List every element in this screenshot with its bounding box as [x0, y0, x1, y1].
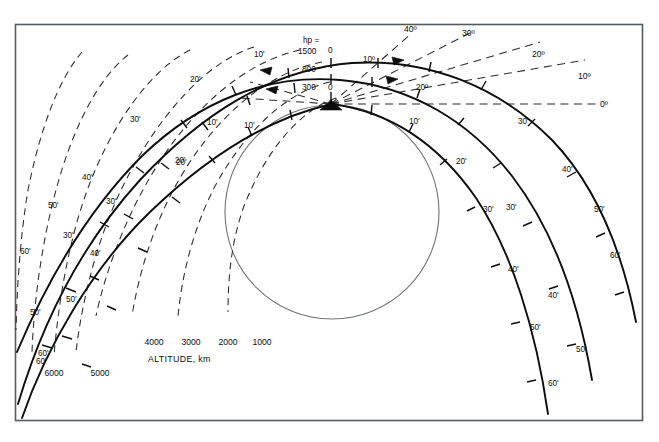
altitude-label-3000: 3000 [181, 337, 200, 347]
elevation-line-10deg-left [250, 82, 331, 104]
time-label-1500-left-40: 40' [82, 173, 93, 182]
tick-mark [481, 81, 486, 90]
time-label-800-right-20: 20' [456, 157, 467, 166]
time-label-300-left-50: 50' [30, 308, 41, 317]
tick-mark [107, 306, 116, 310]
tick-mark [523, 222, 532, 226]
altitude-axis-label: ALTITUDE, km [148, 354, 211, 364]
time-label-1500-left-20: 20' [190, 75, 201, 84]
time-label-1500-right-60: 60' [610, 251, 621, 260]
time-label-800-left-50: 50' [66, 295, 77, 304]
tick-mark [491, 264, 500, 267]
elevation-label-20deg: 20º [532, 49, 546, 59]
altitude-label-1000: 1000 [252, 337, 271, 347]
time-label-1500-left-50: 50' [48, 201, 59, 210]
tick-mark [247, 96, 250, 105]
trajectory-hp-800 [17, 79, 592, 380]
earth-circle [225, 105, 439, 319]
time-label-300-right-40: 40' [508, 265, 519, 274]
time-label-300-right-10: 10' [409, 117, 420, 126]
elevation-label-0deg: 0º [600, 99, 609, 109]
tick-mark [511, 322, 520, 324]
tick-mark [458, 118, 464, 125]
hp-label-800: 800 [302, 64, 316, 74]
altitude-contour-outer2 [16, 52, 82, 330]
tick-mark [161, 163, 169, 169]
hp-zero-marker-bottom: 0 [328, 82, 333, 92]
arrowhead-hp1500-left [260, 67, 272, 75]
tick-mark [290, 110, 292, 120]
time-label-800-left-30: 30' [106, 197, 117, 206]
altitude-label-6000: 6000 [44, 368, 63, 378]
tick-mark [42, 345, 52, 348]
elevation-label-30deg: 30º [462, 28, 476, 38]
time-label-800-right-50: 50' [576, 345, 587, 354]
time-label-800-left-10: 10' [207, 118, 218, 127]
tick-mark [288, 68, 289, 78]
tick-mark [549, 286, 558, 289]
tick-mark [527, 380, 536, 382]
time-label-300-left-60: 60' [36, 357, 47, 366]
altitude-contour-1000 [228, 98, 336, 312]
tick-mark [82, 364, 91, 367]
tick-mark [62, 336, 72, 339]
trajectory-hp-1500 [18, 62, 636, 404]
time-label-300-left-30: 30' [63, 231, 74, 240]
inner-elev-label-20: 20º [416, 83, 428, 92]
tick-mark [493, 163, 501, 168]
tick-mark [615, 292, 624, 295]
tick-mark [371, 105, 372, 115]
time-label-1500-right-50: 50' [594, 205, 605, 214]
hp-legend-title: hp = [303, 35, 320, 45]
tick-mark [567, 344, 576, 346]
hp-label-1500: 1500 [298, 46, 317, 56]
altitude-contour-2000 [178, 82, 330, 316]
tick-mark [124, 214, 133, 219]
trajectory-curves [17, 62, 636, 418]
time-label-1500-right-40: 40' [562, 165, 573, 174]
elevation-label-40deg: 40º [404, 24, 418, 34]
altitude-label-2000: 2000 [218, 337, 237, 347]
time-label-300-right-30: 30' [483, 205, 494, 214]
figure-root: hp = 1500 0 800 300 0 40º 30º 20º 10º 0º… [0, 0, 659, 442]
time-label-1500-left-60: 60' [20, 247, 31, 256]
tick-mark [66, 288, 76, 292]
tick-mark [136, 167, 144, 173]
time-label-1500-left-30: 30' [130, 115, 141, 124]
altitude-label-5000: 5000 [90, 368, 109, 378]
time-label-800-left-40: 40' [90, 249, 101, 258]
elevation-label-10deg: 10º [578, 71, 592, 81]
altitude-contour-6000 [54, 50, 190, 356]
time-label-300-left-10: 10' [244, 121, 255, 130]
tick-mark [467, 207, 475, 211]
tick-mark [138, 248, 147, 252]
time-label-1500-left-10: 10' [254, 50, 265, 59]
tick-mark [596, 233, 605, 237]
inner-elev-label-10: 10º [363, 55, 375, 64]
arrowhead-hp800-right [386, 76, 398, 84]
time-label-300-left-20: 20' [176, 158, 187, 167]
elevation-line-10deg [331, 60, 585, 104]
hp-zero-marker-top: 0 [328, 45, 333, 55]
time-label-1500-right-30: 30' [518, 117, 529, 126]
time-label-300-right-50: 50' [530, 323, 541, 332]
arrowhead-hp800-left [266, 86, 278, 94]
tick-mark [232, 86, 236, 95]
time-label-800-right-40: 40' [548, 291, 559, 300]
time-label-300-right-60: 60' [548, 379, 559, 388]
altitude-label-4000: 4000 [144, 337, 163, 347]
hp-label-300: 300 [302, 82, 316, 92]
time-label-800-right-30: 30' [506, 203, 517, 212]
tick-mark [172, 197, 180, 203]
tick-mark [294, 83, 295, 93]
trajectory-chart: hp = 1500 0 800 300 0 40º 30º 20º 10º 0º… [0, 0, 659, 442]
